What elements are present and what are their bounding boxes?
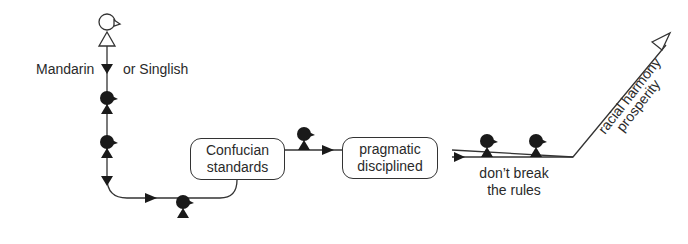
open-figure-icon bbox=[99, 14, 120, 46]
arrowhead-icon bbox=[101, 64, 465, 203]
flow-diagram bbox=[0, 0, 688, 244]
filled-figure-icon bbox=[480, 134, 498, 157]
filled-figure-icon bbox=[100, 135, 118, 158]
confucian-standards-box: Confucian standards bbox=[190, 138, 285, 180]
box1-line2: standards bbox=[191, 159, 284, 176]
start-label-left: Mandarin bbox=[36, 61, 94, 78]
dont-break-rules-label: don’t break the rules bbox=[479, 165, 549, 199]
box2-line1: pragmatic bbox=[343, 141, 437, 158]
filled-figure-icon bbox=[529, 134, 547, 157]
box1-line1: Confucian bbox=[191, 142, 284, 159]
pragmatic-disciplined-box: pragmatic disciplined bbox=[342, 137, 438, 179]
box2-line2: disciplined bbox=[343, 158, 437, 175]
start-label-right: or Singlish bbox=[123, 61, 188, 78]
filled-figure-icon bbox=[100, 91, 118, 114]
filled-figure-icon bbox=[297, 127, 315, 150]
